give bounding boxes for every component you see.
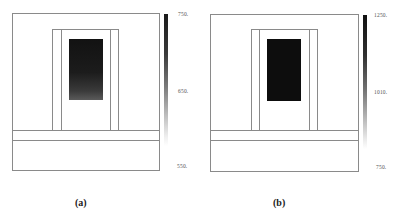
hot-core-region <box>69 39 103 100</box>
panel-b: 1250. 1010. 750. (b) <box>198 0 398 218</box>
colorbar-min-label: 750. <box>376 164 386 170</box>
structure-wall-right-inner <box>110 29 111 130</box>
layer-line-upper <box>12 130 160 131</box>
structure-top-line <box>52 29 119 30</box>
panel-caption: (b) <box>273 197 285 208</box>
colorbar-min-label: 550. <box>177 163 187 169</box>
structure-wall-left-outer <box>52 29 53 130</box>
structure-top-line <box>251 29 318 30</box>
hot-core-region <box>267 39 301 101</box>
colorbar-max-label: 750. <box>178 11 188 17</box>
colorbar-max-label: 1250. <box>374 12 387 18</box>
colorbar-mid-label: 1010. <box>374 89 387 95</box>
structure-wall-right-inner <box>309 29 310 130</box>
panel-caption: (a) <box>75 197 87 208</box>
structure-wall-left-inner <box>259 29 260 130</box>
structure-wall-left-outer <box>251 29 252 130</box>
panel-a: 750. 650. 550. (a) <box>0 0 200 218</box>
colorbar <box>164 14 168 146</box>
layer-line-lower <box>210 140 359 141</box>
structure-wall-right-outer <box>118 29 119 130</box>
structure-wall-right-outer <box>317 29 318 130</box>
structure-wall-left-inner <box>61 29 62 130</box>
layer-line-lower <box>12 140 160 141</box>
colorbar <box>363 15 367 149</box>
colorbar-mid-label: 650. <box>178 88 188 94</box>
layer-line-upper <box>210 130 359 131</box>
